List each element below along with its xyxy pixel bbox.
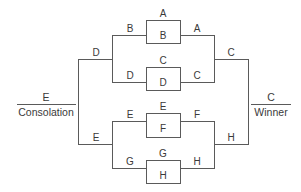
team-label-a: A [160,9,167,19]
winner-title: Winner [254,107,287,117]
team-label-b: B [160,31,167,41]
team-label-g: G [159,149,167,159]
team-label-f: F [160,124,166,134]
winners-r2-label-c: C [193,71,200,81]
champion: C [267,92,275,102]
winners-semi-label-c: C [227,48,234,58]
winners-semi-label-h: H [227,133,234,143]
winners-r2-label-f: F [194,110,200,120]
consolation-r2-label-g: G [126,157,134,167]
team-label-c: C [159,56,166,66]
consolation-r2-label-e: E [127,110,134,120]
consolation-r2-label-d: D [126,71,133,81]
consolation-semi-label-e: E [93,133,100,143]
consolation-winner: E [42,92,49,102]
team-label-e: E [160,102,167,112]
winners-r2-label-a: A [194,24,201,34]
consolation-r2-label-b: B [127,24,134,34]
winners-r2-label-h: H [193,157,200,167]
consolation-title: Consolation [18,107,73,117]
team-label-d: D [159,78,166,88]
consolation-semi-label-d: D [92,48,99,58]
team-label-h: H [159,171,166,181]
